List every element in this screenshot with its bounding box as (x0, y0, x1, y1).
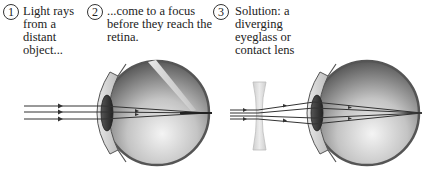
step-2-badge: 2 (87, 4, 103, 20)
eyeball (315, 61, 419, 165)
step-1-label: Light rays from a distant object... (23, 5, 74, 57)
step-3-badge: 3 (213, 4, 229, 20)
uncorrected-eye (24, 60, 212, 165)
step-1-badge: 1 (3, 4, 19, 20)
myopia-diagram: 1 Light rays from a distant object... 2 … (0, 0, 435, 179)
step-3-label: Solution: a diverging eyeglass or contac… (235, 5, 294, 57)
crystalline-lens (101, 95, 113, 131)
step-2-label: ...come to a focus before they reach the… (107, 5, 212, 44)
crystalline-lens (311, 95, 323, 131)
